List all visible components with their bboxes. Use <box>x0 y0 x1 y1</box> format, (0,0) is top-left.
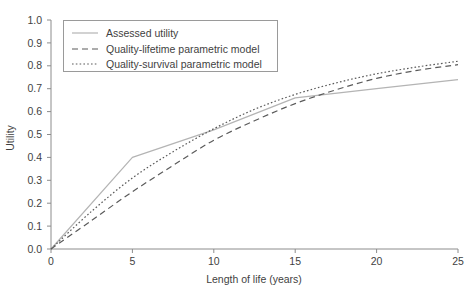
series-assessed-utility <box>51 80 458 249</box>
series-quality-survival-parametric-model <box>51 61 458 249</box>
series-quality-lifetime-parametric-model <box>51 65 458 249</box>
legend-label-quality-survival: Quality-survival parametric model <box>106 58 262 70</box>
y-tick-label-5: 0.5 <box>27 128 42 140</box>
x-axis-ticks <box>51 249 458 253</box>
y-tick-label-7: 0.7 <box>27 82 42 94</box>
y-tick-label-0: 0.0 <box>27 243 42 255</box>
series-group <box>51 61 458 249</box>
x-tick-label-3: 15 <box>289 255 301 267</box>
line-chart: 0.0 0.1 0.2 0.3 0.4 0.5 0.6 0.7 0.8 0.9 … <box>0 0 474 288</box>
y-tick-label-6: 0.6 <box>27 105 42 117</box>
y-axis: 0.0 0.1 0.2 0.3 0.4 0.5 0.6 0.7 0.8 0.9 … <box>27 14 51 255</box>
x-tick-label-2: 10 <box>208 255 220 267</box>
chart-figure: 0.0 0.1 0.2 0.3 0.4 0.5 0.6 0.7 0.8 0.9 … <box>0 0 474 288</box>
x-tick-label-5: 25 <box>452 255 464 267</box>
x-tick-label-4: 20 <box>371 255 383 267</box>
y-axis-ticks <box>47 20 51 249</box>
x-axis: 0 5 10 15 20 25 <box>48 249 464 267</box>
y-axis-title: Utility <box>4 124 16 150</box>
y-tick-label-2: 0.2 <box>27 197 42 209</box>
x-axis-title: Length of life (years) <box>206 273 302 285</box>
y-tick-label-3: 0.3 <box>27 174 42 186</box>
legend-label-quality-lifetime: Quality-lifetime parametric model <box>106 43 259 55</box>
y-tick-label-9: 0.9 <box>27 37 42 49</box>
y-tick-label-4: 0.4 <box>27 151 42 163</box>
legend-label-assessed-utility: Assessed utility <box>106 27 179 39</box>
chart-legend: Assessed utility Quality-lifetime parame… <box>64 21 278 72</box>
y-tick-label-8: 0.8 <box>27 59 42 71</box>
y-tick-label-10: 1.0 <box>27 14 42 26</box>
y-tick-label-1: 0.1 <box>27 220 42 232</box>
x-tick-label-1: 5 <box>129 255 135 267</box>
x-tick-label-0: 0 <box>48 255 54 267</box>
